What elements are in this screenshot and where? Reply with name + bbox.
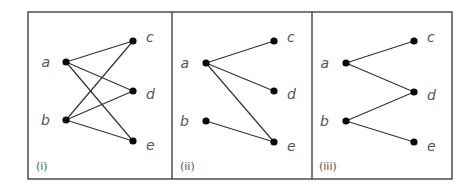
vertex-label-d: d bbox=[146, 86, 155, 102]
vertex-d bbox=[129, 87, 136, 94]
graph-panels: abcde(i)abcde(ii)abcde(iii) bbox=[36, 29, 436, 173]
figure-frame bbox=[28, 12, 452, 179]
vertex-e bbox=[410, 138, 417, 145]
vertex-label-e: e bbox=[427, 138, 436, 154]
edge-a-d bbox=[206, 63, 274, 91]
graph-panel-i: abcde(i) bbox=[36, 29, 155, 173]
vertices: abcde bbox=[41, 29, 155, 153]
edge-b-c bbox=[66, 41, 133, 120]
vertex-a bbox=[62, 58, 69, 65]
graph-panel-ii: abcde(ii) bbox=[180, 29, 296, 173]
edge-b-d bbox=[346, 92, 414, 121]
edge-b-e bbox=[346, 121, 414, 142]
vertex-d bbox=[410, 88, 417, 95]
vertex-label-b: b bbox=[320, 113, 329, 129]
edge-a-c bbox=[66, 41, 133, 62]
vertex-a bbox=[342, 59, 349, 66]
vertex-c bbox=[410, 37, 417, 44]
vertex-e bbox=[129, 137, 136, 144]
edges bbox=[346, 41, 414, 142]
vertex-label-c: c bbox=[427, 29, 435, 45]
vertex-label-b: b bbox=[180, 113, 189, 129]
vertex-b bbox=[62, 116, 69, 123]
vertex-c bbox=[129, 37, 136, 44]
edge-a-d bbox=[346, 63, 414, 92]
edges bbox=[66, 41, 133, 141]
vertex-c bbox=[270, 37, 277, 44]
vertex-b bbox=[342, 117, 349, 124]
vertex-label-e: e bbox=[146, 137, 155, 153]
panel-label: (i) bbox=[36, 160, 48, 173]
panel-label: (iii) bbox=[319, 160, 337, 173]
edge-b-e bbox=[206, 121, 274, 142]
edge-a-e bbox=[206, 63, 274, 142]
vertex-label-c: c bbox=[287, 29, 295, 45]
vertex-label-a: a bbox=[320, 55, 329, 71]
vertices: abcde bbox=[180, 29, 296, 154]
vertex-label-a: a bbox=[41, 54, 50, 70]
edge-b-d bbox=[66, 91, 133, 120]
bipartite-graphs-figure: abcde(i)abcde(ii)abcde(iii) bbox=[0, 0, 475, 194]
edge-a-d bbox=[66, 62, 133, 91]
panel-label: (ii) bbox=[180, 160, 195, 173]
edge-a-c bbox=[206, 41, 274, 63]
vertices: abcde bbox=[320, 29, 436, 154]
edge-b-e bbox=[66, 120, 133, 141]
vertex-a bbox=[202, 59, 209, 66]
vertex-label-c: c bbox=[146, 29, 154, 45]
vertex-b bbox=[202, 117, 209, 124]
vertex-label-a: a bbox=[180, 55, 189, 71]
vertex-label-e: e bbox=[287, 138, 296, 154]
vertex-label-b: b bbox=[41, 112, 50, 128]
edge-a-e bbox=[66, 62, 133, 141]
edge-a-c bbox=[346, 41, 414, 63]
vertex-d bbox=[270, 87, 277, 94]
vertex-e bbox=[270, 138, 277, 145]
vertex-label-d: d bbox=[287, 86, 296, 102]
graph-panel-iii: abcde(iii) bbox=[319, 29, 436, 173]
vertex-label-d: d bbox=[427, 87, 436, 103]
edges bbox=[206, 41, 274, 142]
